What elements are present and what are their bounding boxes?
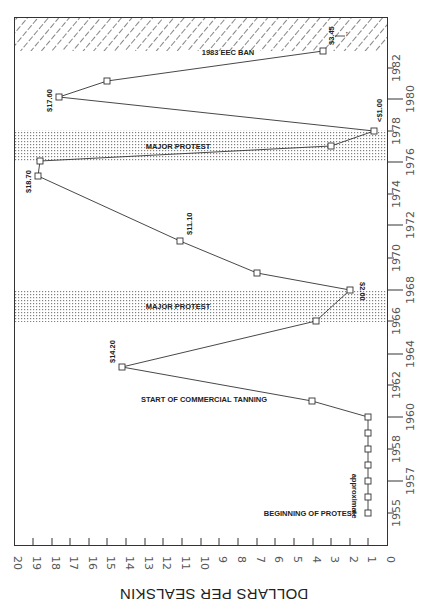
value-label-1978: <$1.00 xyxy=(375,99,384,122)
data-markers xyxy=(35,48,377,516)
svg-text:15: 15 xyxy=(104,556,117,570)
svg-text:2: 2 xyxy=(347,556,360,563)
data-point xyxy=(313,318,319,324)
svg-text:8: 8 xyxy=(235,556,248,563)
svg-text:9: 9 xyxy=(216,556,229,563)
data-point xyxy=(365,414,371,420)
price-line xyxy=(38,51,374,513)
svg-text:4: 4 xyxy=(310,556,323,563)
data-point xyxy=(320,48,326,54)
data-point xyxy=(254,270,260,276)
data-point xyxy=(365,462,371,468)
data-point xyxy=(365,430,371,436)
dollar-axis-title: DOLLARS PER SEALSKIN xyxy=(120,586,309,603)
svg-text:1958: 1958 xyxy=(390,435,403,463)
svg-text:1966: 1966 xyxy=(390,307,403,335)
data-point xyxy=(365,510,371,516)
svg-text:0: 0 xyxy=(384,556,397,563)
value-label-1980: $17.60 xyxy=(45,89,54,112)
value-label-1975: $18.70 xyxy=(24,170,33,193)
value-label-1971: $11.10 xyxy=(185,212,194,235)
svg-text:1982: 1982 xyxy=(390,54,403,82)
dollar-axis xyxy=(33,538,368,545)
svg-text:16: 16 xyxy=(86,556,99,570)
svg-text:10: 10 xyxy=(198,556,211,570)
svg-text:1957: 1957 xyxy=(404,467,417,495)
svg-text:1968: 1968 xyxy=(404,276,417,304)
svg-text:1970: 1970 xyxy=(390,244,403,272)
data-point xyxy=(365,494,371,500)
svg-text:6: 6 xyxy=(272,556,285,563)
annotation-tanning: START OF COMMERCIAL TANNING xyxy=(141,395,267,404)
ban-arrow-glyph: → xyxy=(341,30,350,38)
value-label-1963: $14.20 xyxy=(108,340,117,363)
svg-text:14: 14 xyxy=(123,556,136,570)
data-point xyxy=(371,128,377,134)
data-point xyxy=(104,78,110,84)
data-point xyxy=(347,287,353,293)
svg-text:17: 17 xyxy=(67,556,80,570)
svg-text:1972: 1972 xyxy=(404,211,417,239)
svg-text:18: 18 xyxy=(49,556,62,570)
svg-text:7: 7 xyxy=(254,556,267,563)
svg-text:1955: 1955 xyxy=(390,499,403,527)
dollar-tick-labels: 20 19 18 17 16 15 14 13 12 11 10 9 8 7 6… xyxy=(11,556,397,570)
data-point xyxy=(365,446,371,452)
svg-text:1964: 1964 xyxy=(404,340,417,368)
value-label-1983: $3.45 xyxy=(327,26,336,45)
plot-frame xyxy=(15,18,388,546)
svg-text:19: 19 xyxy=(30,556,43,570)
annotation-beginning: BEGINNING OF PROTEST xyxy=(264,509,357,518)
value-label-1968: $2.00 xyxy=(358,282,367,301)
data-point xyxy=(119,364,125,370)
svg-text:1978: 1978 xyxy=(390,117,403,145)
svg-text:3: 3 xyxy=(328,556,341,563)
data-point xyxy=(328,143,334,149)
annotation-protest-1976: MAJOR PROTEST xyxy=(146,142,211,151)
annotation-ban: 1983 EEC BAN xyxy=(202,48,255,57)
data-point xyxy=(35,173,41,179)
svg-text:5: 5 xyxy=(291,556,304,563)
svg-text:1976: 1976 xyxy=(404,148,417,176)
svg-text:11: 11 xyxy=(179,556,192,570)
svg-text:1962: 1962 xyxy=(390,371,403,399)
svg-text:20: 20 xyxy=(11,556,24,570)
annotation-protest-1966: MAJOR PROTEST xyxy=(146,302,211,311)
svg-text:1980: 1980 xyxy=(404,85,417,113)
data-point xyxy=(365,478,371,484)
data-point xyxy=(56,94,62,100)
svg-text:1: 1 xyxy=(365,556,378,563)
svg-text:13: 13 xyxy=(142,556,155,570)
data-point xyxy=(37,158,43,164)
svg-text:12: 12 xyxy=(160,556,173,570)
svg-text:1974: 1974 xyxy=(390,180,403,208)
data-point xyxy=(177,238,183,244)
data-point xyxy=(309,398,315,404)
svg-text:1960: 1960 xyxy=(404,403,417,431)
chart: 20 19 18 17 16 15 14 13 12 11 10 9 8 7 6… xyxy=(0,0,430,603)
